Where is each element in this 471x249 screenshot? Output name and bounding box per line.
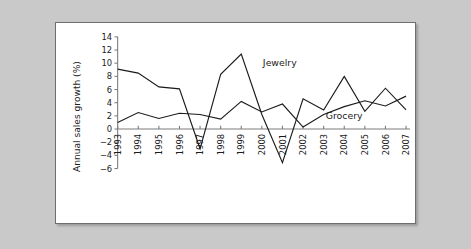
x-tick-label: 2004 [339,134,349,155]
chart-panel: −6−4−202468101214 1993199419951996199719… [55,22,416,224]
x-tick-label: 2006 [381,134,391,155]
y-tick-label: 8 [107,71,112,81]
y-axis-title: Annual sales growth (%) [72,61,82,172]
x-tick-label: 1996 [175,134,185,155]
y-tick-label: 2 [107,111,112,121]
x-tick-label: 1995 [154,134,164,155]
y-tick-label: 4 [107,98,112,108]
y-tick-label: −4 [100,150,112,160]
x-tick-label: 1994 [133,134,143,155]
series-labels: JewelryGrocery [262,57,363,121]
y-tick-label: 6 [107,85,112,95]
x-tick-label: 2000 [257,134,267,155]
x-tick-label: 2002 [298,134,308,155]
y-tick-label: −2 [100,137,112,147]
series-label-grocery: Grocery [326,110,363,121]
x-tick-label: 1998 [216,134,226,155]
x-tick-label: 1999 [236,134,246,155]
x-axis: 1993199419951996199719981999200020012002… [113,126,411,155]
y-tick-label: 0 [107,124,112,134]
series-grocery [118,96,406,127]
series-label-jewelry: Jewelry [262,57,297,68]
y-tick-label: 10 [102,58,113,68]
line-chart: −6−4−202468101214 1993199419951996199719… [56,23,415,223]
y-tick-label: −6 [100,164,112,174]
x-tick-label: 2003 [319,134,329,155]
y-tick-label: 12 [102,45,113,55]
x-tick-label: 2005 [360,134,370,155]
y-tick-label: 14 [102,32,113,42]
x-tick-label: 1993 [113,134,123,155]
x-tick-label: 2007 [401,134,411,155]
